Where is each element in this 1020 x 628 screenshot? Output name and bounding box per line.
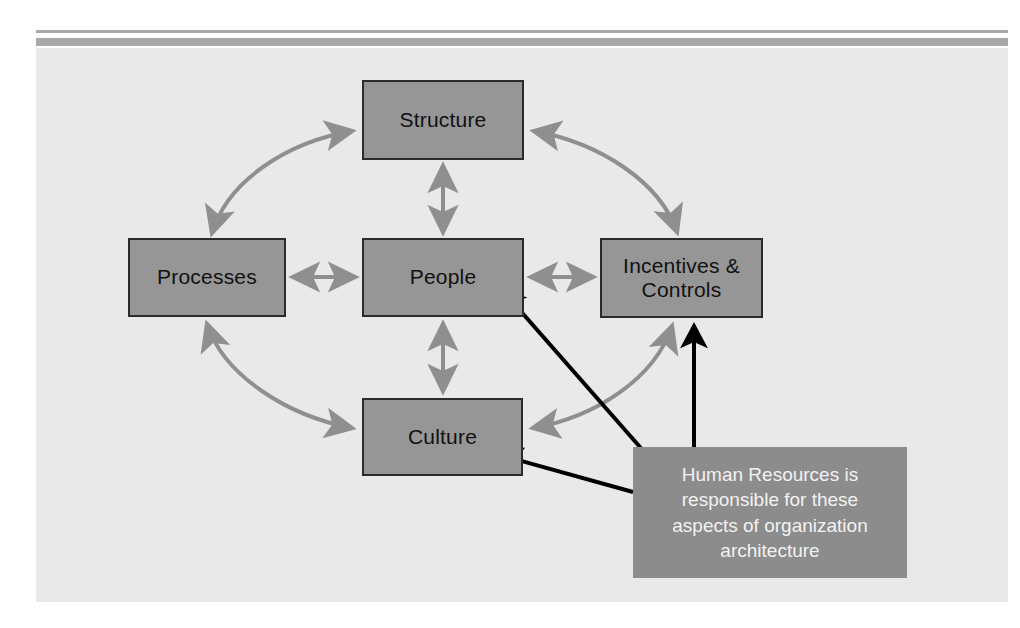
node-structure-label: Structure <box>400 108 487 132</box>
callout-line-4: architecture <box>720 540 819 561</box>
node-processes-label: Processes <box>157 265 257 289</box>
header-rule-thick <box>36 38 1008 46</box>
callout-text: Human Resources is responsible for these… <box>672 462 867 562</box>
callout-human-resources[interactable]: Human Resources is responsible for these… <box>633 447 907 578</box>
node-people-label: People <box>410 265 477 289</box>
header-rule-thin <box>36 30 1008 33</box>
node-people[interactable]: People <box>362 238 524 317</box>
node-incentives-label: Incentives & Controls <box>623 254 740 302</box>
callout-line-2: responsible for these <box>682 489 858 510</box>
node-structure[interactable]: Structure <box>362 80 524 160</box>
node-incentives-label-line1: Incentives & <box>623 254 740 277</box>
node-culture[interactable]: Culture <box>362 398 523 476</box>
node-processes[interactable]: Processes <box>128 238 286 317</box>
node-incentives-controls[interactable]: Incentives & Controls <box>600 238 763 318</box>
callout-line-1: Human Resources is <box>682 464 858 485</box>
node-incentives-label-line2: Controls <box>642 278 722 301</box>
callout-line-3: aspects of organization <box>672 515 867 536</box>
node-culture-label: Culture <box>408 425 477 449</box>
figure-root: Structure Processes People Incentives & … <box>0 0 1020 628</box>
